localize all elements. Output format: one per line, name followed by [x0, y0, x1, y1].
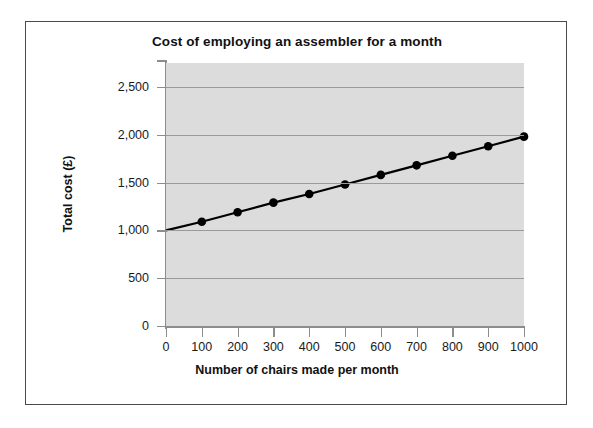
x-tick-label-0: 0	[163, 340, 170, 354]
data-point-500	[341, 180, 350, 189]
x-tick-label-300: 300	[263, 340, 284, 354]
x-tick-0	[166, 326, 167, 337]
x-axis-title: Number of chairs made per month	[26, 363, 568, 377]
x-tick-label-500: 500	[335, 340, 356, 354]
y-tick-label-1000: 1,000	[26, 223, 149, 237]
data-point-1000	[520, 132, 529, 141]
x-tick-100	[202, 326, 203, 337]
data-point-900	[484, 142, 493, 151]
y-axis-title: Total cost (£)	[61, 94, 75, 294]
y-tick-label-2500: 2,500	[26, 80, 149, 94]
x-tick-label-900: 900	[478, 340, 499, 354]
chart-title: Cost of employing an assembler for a mon…	[26, 34, 568, 49]
y-tick-1000	[157, 230, 166, 231]
gridline-y-1000	[166, 230, 524, 231]
data-point-800	[448, 151, 457, 160]
y-tick-label-2000: 2,000	[26, 128, 149, 142]
y-tick-2000	[157, 135, 166, 136]
x-tick-label-800: 800	[442, 340, 463, 354]
x-tick-label-600: 600	[370, 340, 391, 354]
x-tick-label-400: 400	[299, 340, 320, 354]
y-tick-label-500: 500	[26, 271, 149, 285]
x-tick-800	[452, 326, 453, 337]
x-tick-label-200: 200	[227, 340, 248, 354]
data-point-400	[305, 190, 314, 199]
gridline-y-1500	[166, 183, 524, 184]
y-tick-label-1500: 1,500	[26, 176, 149, 190]
y-tick-1500	[157, 183, 166, 184]
x-tick-label-700: 700	[406, 340, 427, 354]
chart-frame: Cost of employing an assembler for a mon…	[25, 21, 567, 405]
x-tick-200	[238, 326, 239, 337]
data-point-300	[269, 198, 278, 207]
x-tick-1000	[524, 326, 525, 337]
gridline-y-2500	[166, 87, 524, 88]
gridline-y-2000	[166, 135, 524, 136]
x-tick-700	[417, 326, 418, 337]
x-tick-label-100: 100	[191, 340, 212, 354]
plot-area	[166, 63, 524, 326]
y-tick-0	[157, 326, 166, 327]
x-tick-900	[488, 326, 489, 337]
data-point-200	[233, 208, 242, 217]
data-series-line	[166, 63, 524, 326]
x-tick-label-1000: 1000	[510, 340, 538, 354]
y-tick-500	[157, 278, 166, 279]
y-tick-2500	[157, 87, 166, 88]
x-tick-400	[309, 326, 310, 337]
x-tick-500	[345, 326, 346, 337]
data-point-600	[377, 171, 386, 180]
y-tick-label-0: 0	[26, 319, 149, 333]
data-point-100	[198, 217, 207, 226]
x-tick-300	[273, 326, 274, 337]
data-point-700	[412, 161, 421, 170]
gridline-y-500	[166, 278, 524, 279]
x-tick-600	[381, 326, 382, 337]
